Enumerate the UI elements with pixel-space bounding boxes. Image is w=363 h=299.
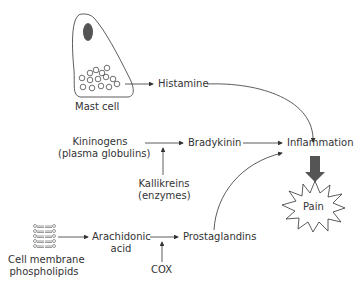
label-prostaglandins: Prostaglandins [183, 231, 256, 243]
label-membrane-line1: Cell membrane [8, 254, 80, 266]
label-kallikreins-line1: Kallikreins [138, 178, 190, 190]
label-kallikreins: Kallikreins (enzymes) [138, 178, 190, 202]
label-mast-cell: Mast cell [75, 101, 119, 113]
label-membrane: Cell membrane phospholipids [8, 254, 80, 278]
label-arachidonic-line2: acid [92, 243, 150, 255]
mast-cell-icon [72, 14, 133, 97]
label-arachidonic: Arachidonic acid [92, 231, 150, 255]
label-kininogens-line2: (plasma globulins) [58, 148, 142, 160]
phospholipid-icon [34, 225, 56, 248]
arrow-histamine-inflammation [207, 84, 313, 142]
arrow-prostaglandins-inflammation [214, 153, 282, 230]
label-histamine: Histamine [158, 78, 209, 90]
granules-icon [79, 65, 120, 91]
label-kininogens-line1: Kininogens [58, 136, 142, 148]
label-inflammation: Inflammation [287, 137, 353, 149]
label-membrane-line2: phospholipids [8, 266, 80, 278]
label-kininogens: Kininogens (plasma globulins) [58, 136, 142, 160]
label-arachidonic-line1: Arachidonic [92, 231, 150, 243]
label-kallikreins-line2: (enzymes) [138, 190, 190, 202]
label-pain: Pain [303, 201, 324, 213]
label-bradykinin: Bradykinin [188, 137, 241, 149]
thick-arrow-icon [305, 156, 325, 182]
label-cox: COX [151, 264, 172, 276]
nucleus-icon [83, 23, 93, 41]
